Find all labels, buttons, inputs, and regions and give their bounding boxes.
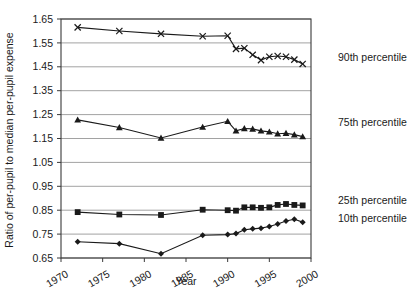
y-tick-label: 1.65 [33, 13, 54, 25]
data-marker-square [116, 212, 122, 218]
data-marker-square [75, 209, 81, 215]
data-marker-square [158, 212, 164, 218]
y-tick-label: 1.45 [33, 60, 54, 72]
data-marker-square [266, 204, 272, 210]
y-tick-label: 0.95 [33, 180, 54, 192]
data-marker-square [300, 203, 306, 209]
chart-background [0, 0, 419, 296]
y-tick-label: 1.55 [33, 37, 54, 49]
data-marker-square [200, 207, 206, 213]
data-marker-square [291, 202, 297, 208]
chart-page: 0.650.750.850.951.051.151.251.351.451.55… [0, 0, 419, 296]
data-marker-square [283, 201, 289, 207]
data-marker-square [225, 207, 231, 213]
percentile-ratio-line-chart: 0.650.750.850.951.051.151.251.351.451.55… [0, 0, 419, 296]
x-axis-title: Year [175, 275, 197, 287]
y-tick-label: 1.05 [33, 156, 54, 168]
data-marker-square [233, 208, 239, 214]
series-label-3: 25th percentile [338, 194, 407, 206]
series-label-2: 75th percentile [338, 116, 407, 128]
y-tick-label: 0.65 [33, 252, 54, 264]
data-marker-square [275, 202, 281, 208]
y-tick-label: 1.15 [33, 132, 54, 144]
data-marker-square [250, 204, 256, 210]
y-tick-label: 0.85 [33, 204, 54, 216]
series-label-1: 90th percentile [338, 51, 407, 63]
y-tick-label: 1.35 [33, 84, 54, 96]
data-marker-square [258, 205, 264, 211]
y-tick-label: 0.75 [33, 228, 54, 240]
data-marker-square [241, 204, 247, 210]
y-tick-label: 1.25 [33, 108, 54, 120]
series-label-4: 10th percentile [338, 212, 407, 224]
y-axis-title: Ratio of per-pupil to median per-pupil e… [3, 32, 15, 248]
